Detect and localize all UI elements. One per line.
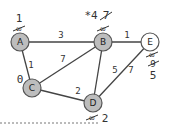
node-b-distance: *4: [84, 9, 98, 22]
weight-c-d: 2: [75, 86, 80, 96]
node-c-distance: 0: [17, 73, 24, 86]
node-b: B *4 7 ∞: [84, 9, 112, 51]
weight-b-e: 1: [124, 30, 129, 40]
node-d-label: D: [90, 98, 97, 108]
node-d-distance: 2: [102, 112, 109, 125]
node-a: A 1 ∞: [11, 12, 29, 51]
weight-d-e: 7: [128, 65, 133, 75]
node-c-label: C: [29, 83, 35, 93]
node-d: D ∞ 2: [84, 94, 108, 125]
node-e: E ∞ 9 5: [141, 33, 159, 82]
node-a-label: A: [17, 37, 24, 47]
graph-diagram: 3 1 7 2 5 1 7 A 1 ∞ B *4 7 ∞ C 0 D ∞ 2 E: [0, 0, 170, 129]
weight-a-c: 1: [28, 60, 33, 70]
weight-a-b: 3: [58, 30, 63, 40]
node-e-distance: 5: [150, 69, 157, 82]
node-e-label: E: [147, 37, 153, 47]
edge-c-b: [32, 42, 103, 88]
weight-c-b: 7: [60, 54, 65, 64]
weight-b-d: 5: [112, 65, 117, 75]
node-b-label: B: [100, 37, 106, 47]
